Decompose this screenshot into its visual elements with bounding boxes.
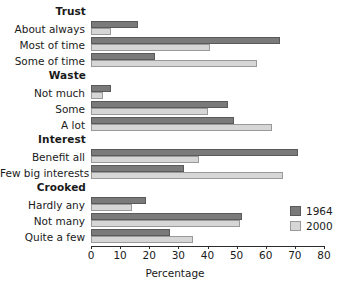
category-label: Few big interests <box>0 165 85 181</box>
x-tick-label: 10 <box>105 249 135 261</box>
bar-1964 <box>91 165 184 172</box>
x-tick-label: 40 <box>193 249 223 261</box>
category-label: About always <box>0 21 85 37</box>
group-header-crooked: Crooked <box>0 181 86 193</box>
category-label: Not many <box>0 213 85 229</box>
legend-swatch-2000 <box>290 221 301 231</box>
legend-label-2000: 2000 <box>306 220 333 232</box>
group-header-waste: Waste <box>0 69 86 81</box>
x-tick-label: 0 <box>76 249 106 261</box>
bar-1964 <box>91 37 280 44</box>
bar-2000 <box>91 60 257 67</box>
legend-item-2000: 2000 <box>290 218 333 233</box>
bar-1964 <box>91 197 146 204</box>
category-label: Quite a few <box>0 229 85 245</box>
legend-swatch-1964 <box>290 206 301 216</box>
category-label: A lot <box>0 117 85 133</box>
legend-item-1964: 1964 <box>290 203 333 218</box>
bar-1964 <box>91 213 242 220</box>
chart-row: Few big interests <box>0 165 350 181</box>
bar-2000 <box>91 108 208 115</box>
x-tick-label: 60 <box>251 249 281 261</box>
chart-row: A lot <box>0 117 350 133</box>
bar-1964 <box>91 229 170 236</box>
category-label: Most of time <box>0 37 85 53</box>
bar-2000 <box>91 156 199 163</box>
chart-row: Most of time <box>0 37 350 53</box>
bar-2000 <box>91 204 132 211</box>
x-tick-label: 80 <box>309 249 339 261</box>
x-tick-label: 20 <box>134 249 164 261</box>
bar-1964 <box>91 21 138 28</box>
bar-1964 <box>91 149 298 156</box>
legend-label-1964: 1964 <box>306 205 333 217</box>
category-label: Benefit all <box>0 149 85 165</box>
chart-row: Some <box>0 101 350 117</box>
bar-2000 <box>91 236 193 243</box>
category-label: Some <box>0 101 85 117</box>
percentage-bar-chart: TrustAbout alwaysMost of timeSome of tim… <box>0 0 350 287</box>
bar-2000 <box>91 28 111 35</box>
category-label: Hardly any <box>0 197 85 213</box>
bar-1964 <box>91 117 234 124</box>
x-tick-label: 50 <box>222 249 252 261</box>
chart-row: Benefit all <box>0 149 350 165</box>
plot-area: TrustAbout alwaysMost of timeSome of tim… <box>0 0 350 287</box>
bar-1964 <box>91 53 155 60</box>
bar-2000 <box>91 172 283 179</box>
group-header-trust: Trust <box>0 5 86 17</box>
x-tick-label: 70 <box>280 249 310 261</box>
bar-1964 <box>91 101 228 108</box>
bar-2000 <box>91 124 272 131</box>
group-header-interest: Interest <box>0 133 86 145</box>
bar-2000 <box>91 44 210 51</box>
chart-row: Some of time <box>0 53 350 69</box>
category-label: Not much <box>0 85 85 101</box>
chart-row: About always <box>0 21 350 37</box>
bar-1964 <box>91 85 111 92</box>
bar-2000 <box>91 92 103 99</box>
x-tick-label: 30 <box>163 249 193 261</box>
chart-row: Not much <box>0 85 350 101</box>
bar-2000 <box>91 220 240 227</box>
legend: 19642000 <box>290 203 333 233</box>
category-label: Some of time <box>0 53 85 69</box>
x-axis-title: Percentage <box>0 267 350 279</box>
